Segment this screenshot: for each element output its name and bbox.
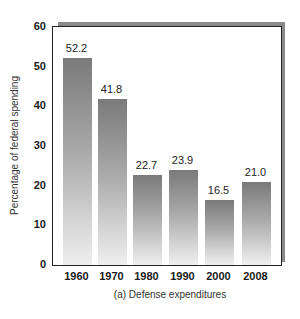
bar-1980 bbox=[133, 175, 162, 265]
y-tick-label: 60 bbox=[28, 20, 46, 32]
x-tick-label: 1990 bbox=[163, 270, 203, 282]
bar-1990 bbox=[169, 170, 198, 265]
bar-value-label: 23.9 bbox=[163, 154, 203, 166]
bar-value-label: 41.8 bbox=[92, 83, 132, 95]
y-tick-label: 10 bbox=[28, 218, 46, 230]
bar-1970 bbox=[98, 99, 127, 265]
bar-value-label: 22.7 bbox=[127, 159, 167, 171]
y-axis-label: Percentage of federal spending bbox=[9, 66, 20, 226]
bar-2008 bbox=[242, 182, 271, 265]
bar-value-label: 16.5 bbox=[199, 184, 239, 196]
x-tick-label: 2008 bbox=[236, 270, 276, 282]
bar-value-label: 52.2 bbox=[57, 42, 97, 54]
y-tick-label: 50 bbox=[28, 60, 46, 72]
y-tick-label: 0 bbox=[28, 258, 46, 270]
x-tick-label: 1970 bbox=[92, 270, 132, 282]
defense-expenditures-chart: 0102030405060 Percentage of federal spen… bbox=[0, 0, 300, 319]
y-tick-label: 40 bbox=[28, 99, 46, 111]
chart-caption: (a) Defense expenditures bbox=[100, 289, 240, 300]
bar-2000 bbox=[205, 200, 234, 265]
bar-value-label: 21.0 bbox=[236, 166, 276, 178]
y-tick-label: 20 bbox=[28, 179, 46, 191]
x-tick-label: 2000 bbox=[199, 270, 239, 282]
x-tick-label: 1960 bbox=[57, 270, 97, 282]
plot-area bbox=[52, 26, 282, 266]
bar-1960 bbox=[63, 58, 92, 265]
x-tick-label: 1980 bbox=[127, 270, 167, 282]
y-tick-label: 30 bbox=[28, 139, 46, 151]
